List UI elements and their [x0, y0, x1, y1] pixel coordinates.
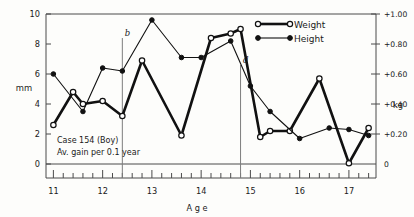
data-point-weight	[267, 128, 272, 133]
x-axis-title: A g e	[186, 203, 207, 213]
y-axis-left-ticks: 0246810	[30, 9, 51, 169]
data-point-height	[268, 109, 273, 114]
x-tick-label: 17	[344, 186, 354, 196]
x-tick-label: 12	[97, 186, 107, 196]
y-left-tick-label: 6	[35, 69, 40, 79]
annotation-line-2: Av. gain per 0.1 year	[57, 148, 141, 157]
legend-weight-marker-start	[255, 21, 260, 26]
y-left-tick-label: 4	[35, 99, 40, 109]
annotation-line-1: Case 154 (Boy)	[57, 136, 118, 145]
y-axis-right-unit-label: kg	[393, 100, 403, 110]
y-left-tick-label: 10	[30, 9, 40, 19]
chart-container: 0246810 0+0.20+0.40+0.60+0.80+1.00 11121…	[0, 0, 414, 217]
data-point-weight	[208, 35, 213, 40]
legend-label-weight: Weight	[294, 20, 326, 30]
x-axis-ticks: 11121314151617	[48, 170, 368, 196]
data-point-weight	[346, 161, 351, 166]
x-tick-label: 14	[196, 186, 206, 196]
y-left-tick-label: 0	[35, 159, 40, 169]
data-point-weight	[317, 76, 322, 81]
data-point-height	[366, 133, 371, 138]
data-point-weight	[238, 26, 243, 31]
legend-height-marker-end	[288, 36, 293, 41]
y-right-tick-label: +0.20	[384, 130, 407, 139]
y-left-tick-label: 2	[35, 129, 40, 139]
y-right-tick-label: +1.00	[384, 10, 407, 19]
data-point-height	[327, 126, 332, 131]
data-point-height	[199, 55, 204, 60]
data-point-height	[120, 69, 125, 74]
event-markers: bd	[122, 28, 249, 179]
y-axis-left-unit-label: mm	[16, 83, 32, 93]
data-point-height	[179, 55, 184, 60]
growth-velocity-chart: 0246810 0+0.20+0.40+0.60+0.80+1.00 11121…	[0, 0, 414, 217]
data-point-weight	[366, 125, 371, 130]
data-point-height	[100, 66, 105, 71]
data-point-weight	[80, 101, 85, 106]
legend-height-marker-start	[256, 36, 261, 41]
x-tick-label: 15	[245, 186, 255, 196]
data-point-weight	[120, 113, 125, 118]
data-point-weight	[70, 89, 75, 94]
data-point-weight	[258, 134, 263, 139]
legend-item-weight[interactable]: Weight	[255, 20, 325, 30]
y-right-tick-label: +0.60	[384, 70, 407, 79]
data-point-weight	[228, 31, 233, 36]
data-point-height	[347, 127, 352, 132]
data-point-weight	[100, 98, 105, 103]
x-tick-label: 13	[147, 186, 157, 196]
x-tick-label: 11	[48, 186, 58, 196]
data-point-height	[81, 109, 86, 114]
data-point-weight	[139, 58, 144, 63]
data-point-height	[228, 39, 233, 44]
data-point-height	[51, 72, 56, 77]
y-left-tick-label: 8	[35, 39, 40, 49]
y-right-tick-label: +0.80	[384, 40, 407, 49]
marker-label-b: b	[125, 28, 130, 38]
data-point-weight	[51, 122, 56, 127]
data-point-height	[297, 136, 302, 141]
data-point-height	[150, 18, 155, 23]
data-point-height	[248, 84, 253, 89]
legend-label-height: Height	[294, 34, 324, 44]
series-weight	[51, 26, 372, 166]
data-point-weight	[179, 133, 184, 138]
legend-weight-marker-end	[287, 21, 292, 26]
legend-item-height[interactable]: Height	[256, 34, 325, 44]
y-right-tick-label: 0	[384, 160, 389, 169]
chart-legend: Weight Height	[255, 20, 325, 44]
x-tick-label: 16	[294, 186, 304, 196]
